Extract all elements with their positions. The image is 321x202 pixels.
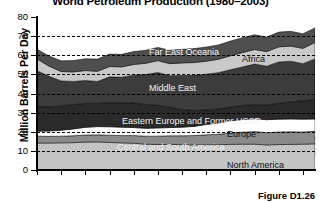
figure-container: World Petroleum Production (1980–2003) M… [0, 0, 321, 202]
y-axis-label-20: 20 [0, 126, 28, 137]
chart-title: World Petroleum Production (1980–2003) [0, 0, 321, 7]
gridline-20 [37, 132, 315, 133]
x-axis-tick-1988 [134, 171, 135, 175]
x-axis-tick-1994 [206, 171, 207, 175]
x-axis-tick-2002 [303, 171, 304, 175]
x-axis-tick-1992 [182, 171, 183, 175]
gridline-10 [37, 151, 315, 152]
y-axis-label-60: 60 [0, 49, 28, 60]
gridline-60 [37, 55, 315, 56]
x-axis-line [36, 169, 316, 171]
gridline-50 [37, 74, 315, 75]
y-axis-line [36, 16, 38, 172]
area-band-north-america [37, 142, 315, 170]
x-axis-tick-1996 [230, 171, 231, 175]
x-axis-tick-1986 [110, 171, 111, 175]
y-axis-label-70: 70 [0, 30, 28, 41]
gridline-30 [37, 113, 315, 114]
x-axis-tick-1990 [158, 171, 159, 175]
y-axis-label-80: 80 [0, 11, 28, 22]
x-axis-tick-1982 [61, 171, 62, 175]
y-axis-label-0: 0 [0, 164, 28, 175]
x-axis-tick-1984 [85, 171, 86, 175]
gridline-70 [37, 36, 315, 37]
y-axis-label-10: 10 [0, 145, 28, 156]
figure-caption: Figure D1.26 [258, 190, 315, 201]
y-axis-label-50: 50 [0, 68, 28, 79]
gridline-40 [37, 94, 315, 95]
plot-area: Far East OceaniaAfricaMiddle EastEastern… [37, 17, 315, 170]
y-axis-label-30: 30 [0, 107, 28, 118]
x-axis-tick-1998 [255, 171, 256, 175]
y-axis-label-40: 40 [0, 88, 28, 99]
x-axis-tick-2000 [279, 171, 280, 175]
